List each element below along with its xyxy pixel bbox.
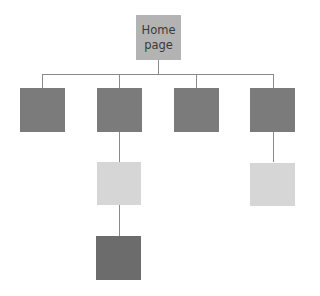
connector-section-4-to-subpage (273, 132, 274, 162)
subpage-node-4a (250, 163, 295, 206)
connector-to-section-3 (196, 74, 197, 88)
connector-to-section-2 (119, 74, 120, 88)
subpage-node-2a (97, 162, 141, 205)
subpage-node-2a-i (96, 236, 141, 280)
connector-to-section-4 (273, 74, 274, 88)
connector-horizontal-bus (42, 74, 274, 75)
connector-root-down (158, 60, 159, 74)
connector-to-section-1 (42, 74, 43, 88)
section-node-2 (97, 88, 142, 132)
section-node-1 (20, 88, 65, 132)
home-label-line1: Home (142, 23, 176, 38)
connector-subpage-to-level3 (119, 205, 120, 236)
connector-section-2-to-subpage (119, 132, 120, 162)
home-page-node: Home page (136, 15, 181, 60)
section-node-3 (174, 88, 219, 132)
section-node-4 (250, 88, 295, 132)
home-label-line2: page (142, 38, 176, 53)
